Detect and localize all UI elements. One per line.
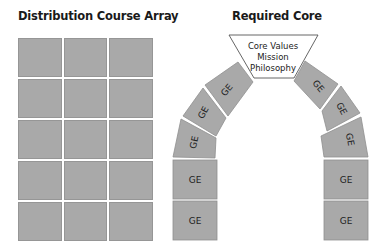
svg-text:GE: GE [340,175,353,185]
svg-text:GE: GE [340,216,353,226]
left-arch-block-5: GE [173,201,217,240]
right-arch-block-4: GE [324,160,368,199]
svg-text:GE: GE [189,216,202,226]
keystone-line-1: Core Values [248,41,299,51]
left-arch-block-4: GE [173,160,217,199]
keystone-line-3: Philosophy [250,63,296,73]
right-arch-block-5: GE [324,201,368,240]
keystone-line-2: Mission [257,52,289,62]
svg-text:GE: GE [189,175,202,185]
required-core-arch: Core Values Mission Philosophy GE GE GE … [0,0,385,251]
